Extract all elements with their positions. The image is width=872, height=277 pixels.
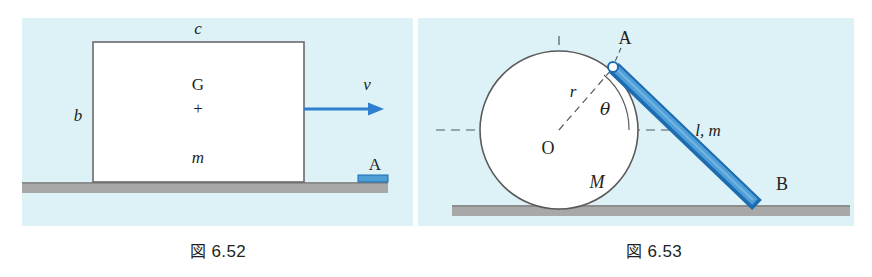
label-center: O <box>542 138 555 158</box>
centroid-cross-icon: + <box>193 99 203 118</box>
label-top-width: c <box>194 19 202 38</box>
label-pivot: A <box>619 28 632 48</box>
velocity-arrow-icon <box>304 103 384 116</box>
caption-kanji: 図 <box>190 242 206 261</box>
figure-6-53: A r θ O M l, m B 図 6.53 <box>436 0 872 277</box>
caption-number: 6.52 <box>211 242 246 261</box>
pivot-joint <box>608 62 618 72</box>
figure-6-52-drawing: c b G + m v A <box>22 18 413 226</box>
label-velocity: v <box>363 75 371 94</box>
caption-number: 6.53 <box>647 242 682 261</box>
figure-6-52-caption: 図 6.52 <box>0 238 436 262</box>
label-mass: m <box>192 148 204 167</box>
figure-6-52-panel: c b G + m v A <box>22 18 413 226</box>
ground-strip <box>452 205 850 216</box>
label-angle: θ <box>600 99 610 119</box>
ground-strip <box>22 182 388 193</box>
label-rod: l, m <box>695 121 721 140</box>
label-centroid: G <box>192 75 204 94</box>
figure-page: c b G + m v A <box>0 0 872 277</box>
figure-6-53-panel: A r θ O M l, m B <box>418 18 854 226</box>
figure-6-52: c b G + m v A <box>0 0 436 277</box>
label-left-height: b <box>74 106 83 125</box>
figure-6-53-drawing: A r θ O M l, m B <box>418 18 854 226</box>
stop-block <box>358 175 388 182</box>
label-rod-end: B <box>776 174 788 194</box>
caption-kanji: 図 <box>626 242 642 261</box>
label-radius: r <box>570 82 577 101</box>
label-disk-mass: M <box>589 172 606 192</box>
figure-6-53-caption: 図 6.53 <box>436 238 872 262</box>
label-stop: A <box>369 155 382 174</box>
